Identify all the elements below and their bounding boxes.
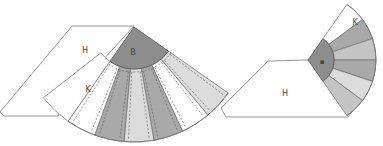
right-label-h: H [282,89,288,98]
right-label-k: K [352,18,358,27]
diagram-canvas: H B K H ▪ K [0,0,383,146]
right-label-hub: ▪ [320,58,325,66]
left-pattern: H B K [0,26,228,142]
left-label-k: K [85,85,91,94]
right-pattern: H ▪ K [221,4,376,117]
left-label-b: B [130,48,136,57]
left-label-h: H [82,46,88,55]
